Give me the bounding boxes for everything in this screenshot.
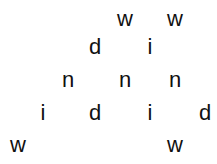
letter: w	[117, 8, 133, 30]
letter: w	[167, 8, 183, 30]
letter: w	[10, 134, 26, 156]
letter: i	[148, 102, 153, 124]
letter: d	[89, 102, 101, 124]
letter: d	[89, 36, 101, 58]
letter: n	[119, 69, 131, 91]
letter: d	[199, 102, 211, 124]
letter: n	[169, 69, 181, 91]
letter: i	[41, 102, 46, 124]
letter: n	[62, 69, 74, 91]
letter: w	[167, 134, 183, 156]
letter: i	[148, 36, 153, 58]
